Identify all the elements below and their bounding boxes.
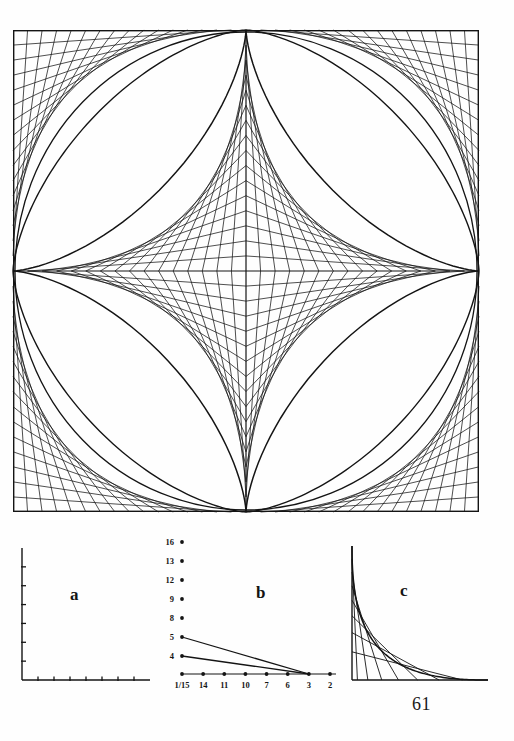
corner-chord [363, 30, 480, 151]
panel-b-x-point [265, 672, 269, 676]
panel-b-x-tick-label: 11 [220, 680, 228, 690]
panel-b-x-tick-label: 10 [241, 680, 250, 690]
panel-b-x-tick-label: 14 [199, 680, 208, 690]
main-figure-astroid [13, 30, 479, 512]
panel-b-x-point [286, 672, 290, 676]
panel-b-x-tick-label: 1/15 [174, 680, 189, 690]
corner-chord [13, 482, 217, 512]
astroid-chord [246, 271, 450, 301]
panel-a-label: a [70, 585, 79, 604]
panel-b-x-tick-label: 7 [264, 680, 269, 690]
corner-chord [13, 30, 130, 151]
corner-arc-outline [13, 30, 246, 271]
panel-b-x-tick-label: 2 [328, 680, 332, 690]
corner-arc-outline [13, 271, 246, 512]
panel-b-y-tick-label: 12 [166, 575, 175, 585]
book-page: a b 16131298541/151411107632 c 61 [0, 0, 514, 741]
corner-chord [363, 392, 480, 513]
panel-b-y-point [180, 559, 184, 563]
corner-arc-outline [246, 271, 479, 512]
panel-b-y-point [180, 540, 184, 544]
corner-chord [13, 392, 130, 513]
panel-b-svg: b 16131298541/151411107632 [160, 534, 340, 702]
page-number: 61 [412, 694, 431, 715]
panel-a: a [8, 540, 156, 698]
panel-b-y-point [180, 616, 184, 620]
astroid-chord [42, 241, 246, 271]
panel-b-y-tick-label: 5 [170, 632, 174, 642]
corner-arc-outline [246, 30, 479, 271]
astroid-chord [130, 271, 247, 392]
panel-b-x-point [222, 672, 226, 676]
panel-b-y-tick-label: 8 [170, 613, 174, 623]
panel-c-chord [352, 633, 439, 680]
panel-b-y-tick-label: 13 [166, 556, 175, 566]
panel-b-line-from-4 [182, 656, 309, 674]
panel-b-y-point [180, 597, 184, 601]
panel-b-y-point [180, 578, 184, 582]
panel-b-x-point [201, 672, 205, 676]
panel-b-label: b [256, 583, 265, 602]
corner-chord [275, 482, 479, 512]
panel-b-y-tick-label: 16 [166, 537, 175, 547]
panel-b-x-tick-label: 6 [286, 680, 290, 690]
corner-chord [275, 30, 479, 60]
panel-c-label: c [400, 581, 408, 600]
panel-c: c [338, 540, 508, 698]
panel-b-y-tick-label: 4 [170, 651, 175, 661]
astroid-envelope-svg [13, 30, 479, 512]
panel-c-envelope-curve [352, 546, 488, 680]
astroid-chord [246, 241, 450, 271]
panel-a-svg: a [8, 540, 156, 698]
panel-b-x-tick-label: 3 [307, 680, 311, 690]
panel-b-x-point [244, 672, 248, 676]
panel-c-svg: c [338, 540, 508, 698]
panel-b-line-from-5 [182, 637, 309, 674]
panel-b-x-point [328, 672, 332, 676]
astroid-chord [246, 151, 363, 272]
panel-b-x-point [180, 672, 184, 676]
astroid-chord [246, 271, 363, 392]
panel-c-chord [352, 616, 418, 680]
panel-c-chord [352, 652, 463, 680]
panel-b-y-tick-label: 9 [170, 594, 174, 604]
astroid-chord [42, 271, 246, 301]
corner-chord [13, 30, 217, 60]
astroid-chord [130, 151, 247, 272]
panel-b: b 16131298541/151411107632 [160, 534, 340, 702]
